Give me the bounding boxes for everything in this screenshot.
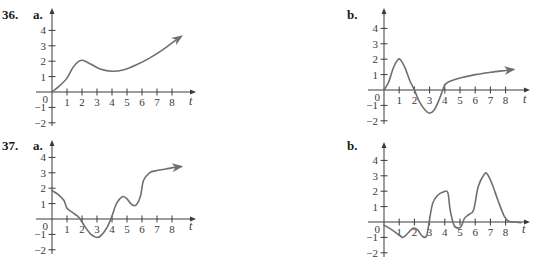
y-tick-label-37b-6: −2 <box>366 247 378 259</box>
x-tick-label-37a-7: 7 <box>154 223 160 235</box>
y-axis-arrow-36b <box>382 8 387 14</box>
part-label-36b: b. <box>347 7 357 22</box>
x-tick-label-37a-4: 4 <box>109 223 115 235</box>
y-tick-label-37a-6: −2 <box>34 244 46 256</box>
y-tick-label-36a-3: 1 <box>41 71 47 83</box>
x-tick-label-37a-1: 1 <box>64 223 70 235</box>
x-axis-arrow-37b <box>524 220 530 225</box>
y-tick-label-36a-2: 2 <box>41 55 47 67</box>
x-tick-label-36a-8: 8 <box>169 96 175 108</box>
x-axis-arrow-37a <box>190 217 196 222</box>
x-tick-label-37b-4: 4 <box>442 226 448 238</box>
y-tick-label-37b-3: 1 <box>373 201 379 213</box>
x-axis-label-37a: t <box>189 219 193 233</box>
y-tick-label-36a-1: 3 <box>41 40 47 52</box>
y-tick-label-37a-0: 4 <box>41 151 47 163</box>
x-tick-label-36b-6: 6 <box>472 94 478 106</box>
y-tick-label-36a-0: 4 <box>41 24 47 36</box>
curve-36b-segment-1 <box>445 70 513 85</box>
y-tick-label-37a-3: 1 <box>41 198 47 210</box>
x-tick-label-36b-4: 4 <box>442 94 448 106</box>
y-tick-label-36a-6: −2 <box>34 117 46 129</box>
x-tick-label-37b-7: 7 <box>488 226 494 238</box>
y-tick-label-36b-1: 3 <box>373 38 379 50</box>
figure-canvas: 36. a. t 1234567843210−1−2 b. t 12345678… <box>0 0 543 269</box>
x-tick-label-37a-6: 6 <box>139 223 145 235</box>
x-tick-label-36a-7: 7 <box>154 96 160 108</box>
y-tick-label-37b-5: −1 <box>366 231 378 243</box>
y-axis-arrow-36a <box>50 8 55 14</box>
x-axis-label-36b: t <box>523 92 527 106</box>
problem-number-37: 37. <box>2 138 18 153</box>
x-tick-label-36b-7: 7 <box>488 94 494 106</box>
x-tick-label-36b-5: 5 <box>457 94 463 106</box>
y-tick-label-37b-0: 4 <box>373 154 379 166</box>
x-axis-arrow-36b <box>524 88 530 93</box>
y-tick-label-36b-3: 1 <box>373 69 379 81</box>
curve-36a-segment-0 <box>52 37 181 92</box>
y-tick-label-36a-5: −1 <box>34 101 46 113</box>
x-tick-label-36a-1: 1 <box>64 96 70 108</box>
x-tick-label-37b-8: 8 <box>503 226 509 238</box>
curve-37b-segment-0 <box>384 173 521 238</box>
x-tick-label-37a-8: 8 <box>169 223 175 235</box>
x-tick-label-36a-6: 6 <box>139 96 145 108</box>
x-tick-label-37a-3: 3 <box>94 223 100 235</box>
y-tick-label-37a-2: 2 <box>41 182 47 194</box>
x-tick-label-36b-3: 3 <box>427 94 433 106</box>
part-label-36a: a. <box>33 7 43 22</box>
x-tick-label-36a-5: 5 <box>124 96 130 108</box>
y-tick-label-36b-0: 4 <box>373 22 379 34</box>
y-tick-label-37a-5: −1 <box>34 228 46 240</box>
y-tick-label-36b-6: −2 <box>366 115 378 127</box>
x-tick-label-37a-5: 5 <box>124 223 130 235</box>
y-tick-label-36b-2: 2 <box>373 53 379 65</box>
x-axis-arrow-36a <box>190 90 196 95</box>
panel-36b: b. t 1234567843210−1−2 <box>347 7 530 127</box>
x-axis-label-36a: t <box>189 94 193 108</box>
y-tick-label-37b-1: 3 <box>373 170 379 182</box>
curve-37a-segment-0 <box>52 167 181 238</box>
y-tick-label-37a-1: 3 <box>41 167 47 179</box>
y-axis-arrow-37a <box>50 140 55 146</box>
x-tick-label-36a-4: 4 <box>109 96 115 108</box>
y-tick-label-36b-5: −1 <box>366 99 378 111</box>
x-tick-label-36a-2: 2 <box>79 96 85 108</box>
x-tick-label-36b-1: 1 <box>396 94 402 106</box>
y-axis-arrow-37b <box>382 142 387 148</box>
x-tick-label-36b-8: 8 <box>503 94 509 106</box>
x-tick-label-36a-3: 3 <box>94 96 100 108</box>
y-tick-label-37b-2: 2 <box>373 185 379 197</box>
panel-37a: 37. a. t 1234567843210−1−2 <box>2 138 196 256</box>
problem-number-36: 36. <box>2 7 18 22</box>
part-label-37b: b. <box>347 138 357 153</box>
panel-36a: 36. a. t 1234567843210−1−2 <box>2 7 196 129</box>
panel-37b: b. t 1234567843210−1−2 <box>347 138 530 259</box>
x-tick-label-37b-6: 6 <box>472 226 478 238</box>
